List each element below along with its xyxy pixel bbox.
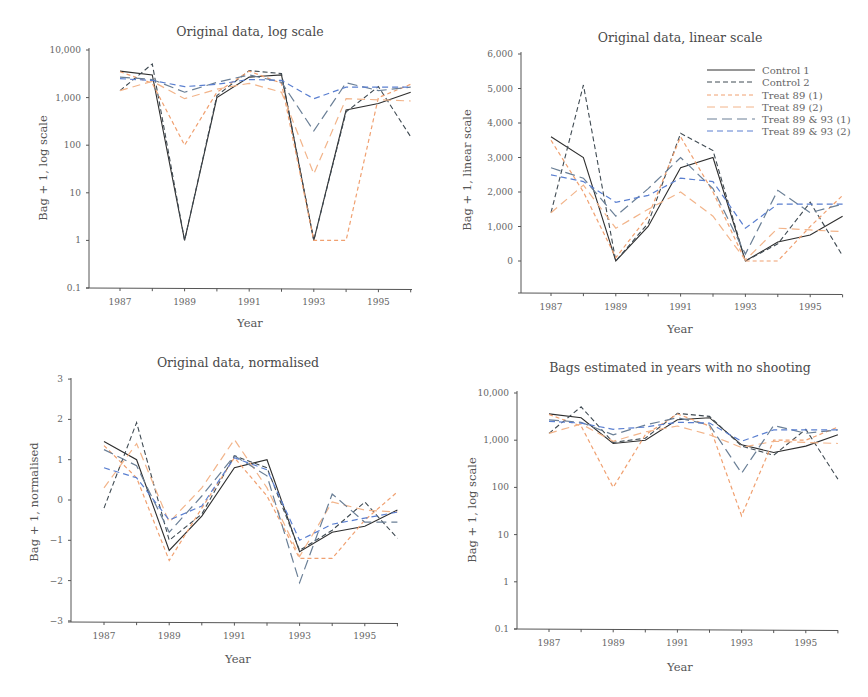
x-tick-label: 1995 (794, 638, 817, 648)
y-tick-label: 2,000 (487, 187, 513, 197)
panel-normalised: Original data, normalised Year Bag + 1, … (27, 355, 398, 666)
x-tick-label: 1987 (109, 297, 132, 307)
plot-lines (120, 64, 411, 241)
x-tick-label: 1989 (173, 297, 196, 307)
x-tick-label: 1993 (302, 297, 325, 307)
x-tick-label: 1995 (353, 631, 376, 641)
axes: 01,0002,0003,0004,0005,0006,000198719891… (487, 49, 842, 312)
x-axis-label: Year (236, 316, 263, 330)
figure-canvas: Original data, log scale Year Bag + 1, l… (0, 0, 868, 697)
plot-lines (549, 407, 838, 516)
x-axis (514, 629, 838, 631)
panel-title: Bags estimated in years with no shooting (549, 360, 811, 375)
y-tick-label: 3,000 (487, 153, 513, 163)
series-line (549, 407, 838, 479)
y-tick-label: −2 (50, 576, 63, 586)
y-tick-label: 10,000 (478, 388, 510, 398)
x-tick-label: 1993 (730, 638, 753, 648)
panel-log-scale: Original data, log scale Year Bag + 1, l… (36, 24, 412, 330)
series-line (120, 71, 411, 240)
y-tick-label: 0.1 (67, 283, 81, 293)
plot-lines (104, 423, 397, 583)
x-tick-label: 1989 (602, 638, 625, 648)
legend-label: Treat 89 (1) (762, 90, 823, 101)
legend-item-control-2: Control 2 (707, 77, 810, 88)
x-tick-label: 1991 (238, 297, 261, 307)
y-axis-label: Bag + 1, log scale (36, 115, 50, 221)
series-line (551, 137, 843, 261)
y-tick-label: 10,000 (50, 45, 82, 55)
panel-title: Original data, log scale (176, 24, 323, 39)
x-axis-label: Year (666, 322, 693, 336)
legend: Control 1 Control 2 Treat 89 (1) Treat 8… (707, 65, 851, 137)
axes: 0.11101001,00010,00019871989199119931995 (478, 388, 839, 648)
legend-label: Treat 89 & 93 (1) (762, 114, 851, 125)
x-tick-label: 1989 (604, 302, 627, 312)
y-tick-label: 1 (75, 235, 81, 245)
legend-label: Control 2 (762, 77, 810, 88)
panel-linear-scale: Original data, linear scale Year Bag + 1… (460, 30, 851, 336)
x-tick-label: 1987 (93, 631, 116, 641)
series-line (104, 423, 397, 551)
panel-estimated-bags: Bags estimated in years with no shooting… (465, 360, 838, 674)
y-axis-label: Bag + 1, log scale (465, 457, 479, 563)
series-line (551, 137, 843, 261)
y-tick-label: 4,000 (487, 118, 513, 128)
x-tick-label: 1991 (223, 631, 246, 641)
x-tick-label: 1987 (540, 302, 563, 312)
legend-item-treat-89-2: Treat 89 (2) (707, 102, 823, 113)
legend-label: Treat 89 (2) (762, 102, 823, 113)
series-line (549, 414, 838, 516)
x-tick-label: 1995 (367, 297, 390, 307)
y-tick-label: 1 (503, 577, 509, 587)
x-axis-label: Year (224, 652, 251, 666)
legend-label: Treat 89 & 93 (2) (762, 126, 851, 137)
y-tick-label: 3 (57, 374, 63, 384)
y-tick-label: 1,000 (55, 93, 81, 103)
x-axis (68, 622, 398, 624)
series-line (120, 75, 411, 131)
x-tick-label: 1993 (734, 302, 757, 312)
y-axis-label: Bag + 1, linear scale (460, 109, 474, 231)
series-line (551, 175, 843, 228)
axes: −3−2−1012319871989199119931995 (50, 374, 398, 641)
series-line (104, 442, 397, 552)
x-tick-label: 1991 (666, 638, 689, 648)
series-line (120, 64, 411, 241)
y-tick-label: 2 (57, 414, 63, 424)
x-tick-label: 1991 (669, 302, 692, 312)
series-line (120, 71, 411, 240)
legend-item-treat-89-93-2: Treat 89 & 93 (2) (707, 126, 851, 137)
x-axis-label: Year (666, 660, 693, 674)
y-tick-label: −1 (50, 535, 63, 545)
x-axis (518, 293, 842, 295)
y-tick-label: 100 (64, 140, 81, 150)
x-tick-label: 1989 (158, 631, 181, 641)
y-tick-label: 10 (498, 530, 510, 540)
panel-title: Original data, normalised (157, 355, 319, 370)
x-tick-label: 1995 (799, 302, 822, 312)
x-tick-label: 1987 (538, 638, 561, 648)
series-line (549, 424, 838, 448)
legend-label: Control 1 (762, 65, 810, 76)
series-line (551, 158, 843, 255)
legend-item-control-1: Control 1 (707, 65, 810, 76)
x-tick-label: 1993 (288, 631, 311, 641)
y-tick-label: 1,000 (487, 222, 513, 232)
series-line (551, 185, 843, 260)
y-tick-label: −3 (50, 616, 64, 626)
y-tick-label: 1 (57, 455, 63, 465)
y-tick-label: 10 (70, 188, 82, 198)
y-axis-label: Bag + 1, normalised (27, 442, 41, 562)
y-tick-label: 0 (57, 495, 63, 505)
y-tick-label: 0.1 (495, 624, 509, 634)
y-tick-label: 100 (492, 482, 509, 492)
y-tick-label: 1,000 (483, 435, 509, 445)
series-line (104, 440, 397, 557)
y-tick-label: 6,000 (487, 49, 513, 59)
legend-item-treat-89-93-1: Treat 89 & 93 (1) (707, 114, 851, 125)
y-tick-label: 0 (507, 256, 513, 266)
y-tick-label: 5,000 (487, 84, 513, 94)
legend-item-treat-89-1: Treat 89 (1) (707, 90, 823, 101)
panel-title: Original data, linear scale (598, 30, 763, 45)
